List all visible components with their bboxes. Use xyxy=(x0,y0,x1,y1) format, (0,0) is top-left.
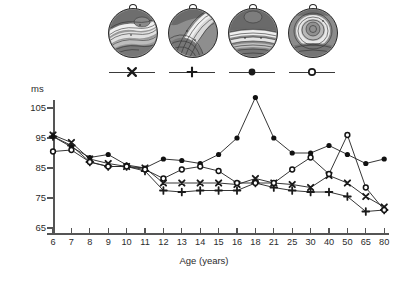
data-point-open-circle xyxy=(382,208,387,213)
data-point-filled-circle xyxy=(345,152,350,157)
data-point-open-circle xyxy=(290,167,295,172)
data-point-open-circle xyxy=(106,164,111,169)
data-point-open-circle xyxy=(87,160,92,165)
data-point-open-circle xyxy=(161,176,166,181)
data-point-open-circle xyxy=(179,167,184,172)
data-point-filled-circle xyxy=(290,150,295,155)
x-axis-title: Age (years) xyxy=(0,255,408,266)
data-point-filled-circle xyxy=(382,156,387,161)
data-point-open-circle xyxy=(253,181,258,186)
data-point-open-circle xyxy=(69,148,74,153)
data-point-plus xyxy=(197,187,204,194)
data-point-open-circle xyxy=(143,167,148,172)
data-point-filled-circle xyxy=(271,135,276,140)
data-point-filled-circle xyxy=(253,95,258,100)
data-point-open-circle xyxy=(308,155,313,160)
figure-panel: ms 65758595105 6789101112131415161821253… xyxy=(0,0,408,282)
data-point-filled-circle xyxy=(179,158,184,163)
data-point-plus xyxy=(289,187,296,194)
data-point-open-circle xyxy=(198,164,203,169)
series-line xyxy=(53,98,384,169)
data-point-x xyxy=(345,180,350,185)
data-point-open-circle xyxy=(271,181,276,186)
data-point-filled-circle xyxy=(326,143,331,148)
data-point-filled-circle xyxy=(216,152,221,157)
data-point-open-circle xyxy=(363,185,368,190)
data-point-open-circle xyxy=(345,133,350,138)
series-open-circle xyxy=(51,133,387,213)
data-point-filled-circle xyxy=(106,152,111,157)
data-point-open-circle xyxy=(327,172,332,177)
data-point-filled-circle xyxy=(234,135,239,140)
line-chart: ms 65758595105 6789101112131415161821253… xyxy=(0,0,408,282)
data-point-open-circle xyxy=(235,181,240,186)
data-point-plus xyxy=(234,187,241,194)
data-point-plus xyxy=(326,189,333,196)
data-point-open-circle xyxy=(216,169,221,174)
data-point-plus xyxy=(215,187,222,194)
data-point-x xyxy=(363,194,368,199)
data-point-open-circle xyxy=(51,149,56,154)
data-point-filled-circle xyxy=(50,134,55,139)
series-layer xyxy=(0,0,408,282)
data-point-filled-circle xyxy=(363,161,368,166)
data-point-open-circle xyxy=(124,164,129,169)
data-point-filled-circle xyxy=(161,156,166,161)
data-point-plus xyxy=(178,189,185,196)
